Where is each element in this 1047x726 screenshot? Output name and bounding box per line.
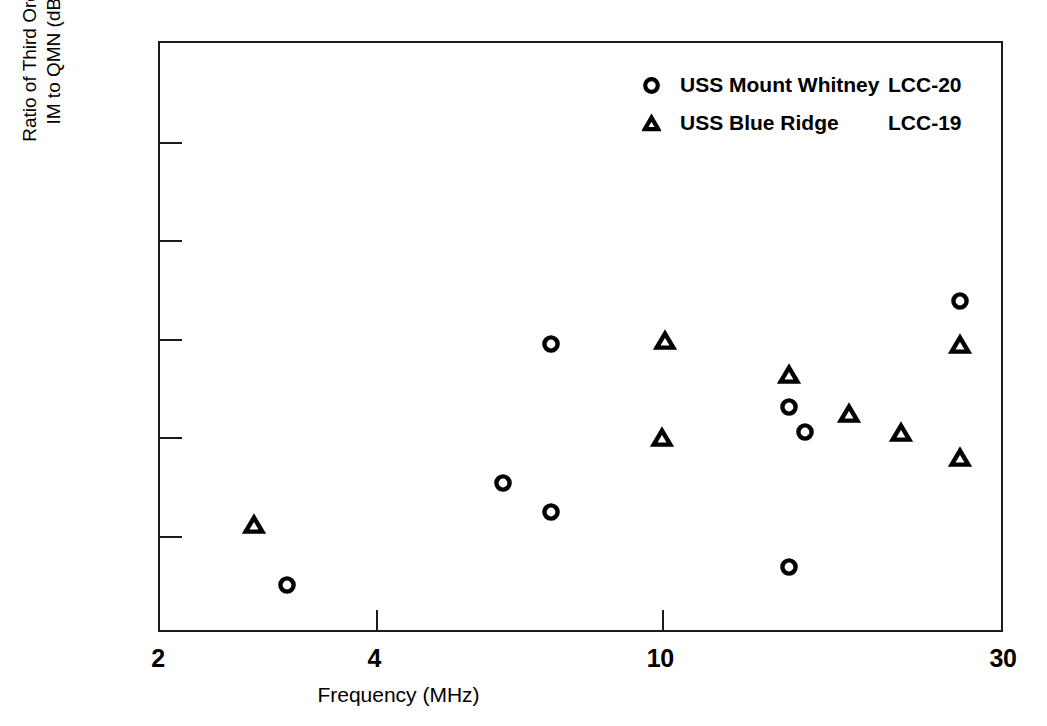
scatter-plot-figure: 20304050607080 Ratio of Third Order IM t… bbox=[0, 0, 1047, 726]
data-point-triangle bbox=[241, 512, 267, 538]
x-axis-tick-label: 2 bbox=[123, 646, 193, 671]
legend-item-mount-whitney: USS Mount Whitney LCC-20 bbox=[636, 66, 962, 104]
data-point-triangle bbox=[649, 425, 675, 451]
data-point-circle bbox=[776, 554, 802, 580]
x-axis-tick-label: 10 bbox=[625, 646, 695, 671]
legend-label-hull-2: LCC-19 bbox=[888, 111, 962, 135]
data-point-triangle bbox=[947, 445, 973, 471]
circle-marker-icon bbox=[636, 72, 666, 98]
y-axis-tick bbox=[160, 142, 182, 144]
legend-label-ship-2: USS Blue Ridge bbox=[666, 111, 888, 135]
data-point-circle bbox=[792, 419, 818, 445]
y-axis-tick bbox=[160, 339, 182, 341]
data-point-triangle bbox=[776, 362, 802, 388]
data-point-circle bbox=[776, 394, 802, 420]
y-axis-title: Ratio of Third Order IM to QMN (dB) bbox=[18, 0, 67, 228]
data-point-circle bbox=[947, 288, 973, 314]
y-axis-title-line-2: IM to QMN (dB) bbox=[42, 0, 66, 228]
legend-label-hull-1: LCC-20 bbox=[888, 73, 962, 97]
x-axis-tick bbox=[662, 610, 664, 630]
data-point-circle bbox=[490, 470, 516, 496]
x-axis-tick-label: 4 bbox=[339, 646, 409, 671]
legend-item-blue-ridge: USS Blue Ridge LCC-19 bbox=[636, 104, 962, 142]
data-point-triangle bbox=[888, 420, 914, 446]
y-axis-tick bbox=[160, 437, 182, 439]
x-axis-title-wrapper: Frequency (MHz) bbox=[0, 684, 1047, 705]
data-point-circle bbox=[538, 499, 564, 525]
x-axis-tick-label: 30 bbox=[968, 646, 1038, 671]
y-axis-tick bbox=[160, 240, 182, 242]
data-point-triangle bbox=[652, 328, 678, 354]
data-point-triangle bbox=[947, 332, 973, 358]
data-point-triangle bbox=[836, 401, 862, 427]
x-axis-tick bbox=[376, 610, 378, 630]
legend-label-ship-1: USS Mount Whitney bbox=[666, 73, 888, 97]
legend: USS Mount Whitney LCC-20 USS Blue Ridge … bbox=[636, 66, 962, 142]
triangle-marker-icon bbox=[636, 110, 666, 136]
y-axis-tick bbox=[160, 536, 182, 538]
y-axis-title-line-1: Ratio of Third Order bbox=[18, 0, 42, 228]
x-axis-title: Frequency (MHz) bbox=[317, 683, 479, 706]
data-point-circle bbox=[538, 331, 564, 357]
data-point-circle bbox=[274, 572, 300, 598]
